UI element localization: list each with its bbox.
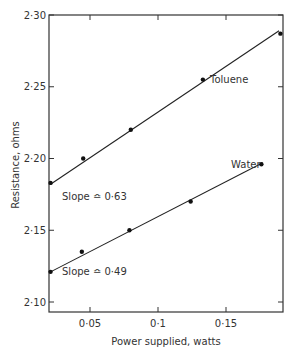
y-axis-title: Resistance, ohms <box>10 121 21 209</box>
fit-lines <box>51 31 279 272</box>
x-tick-label: 0·1 <box>150 318 166 329</box>
y-tick-label: 2·25 <box>24 81 46 92</box>
data-point-toluene <box>129 128 133 132</box>
y-tick-label: 2·15 <box>24 225 46 236</box>
series-label-water: Water <box>231 159 261 170</box>
x-tick-label: 0·05 <box>79 318 101 329</box>
x-axis-title: Power supplied, watts <box>111 336 220 347</box>
y-tick-label: 2·30 <box>24 10 46 21</box>
data-points <box>48 31 282 274</box>
data-point-water <box>80 250 84 254</box>
data-point-toluene <box>48 181 52 185</box>
y-tick-label: 2·10 <box>24 297 46 308</box>
data-point-water <box>48 270 52 274</box>
x-tick-label: 0·15 <box>215 318 237 329</box>
data-point-water <box>127 228 131 232</box>
slope-annotation-water: Slope ≏ 0·49 <box>62 266 127 277</box>
data-point-water <box>188 199 192 203</box>
data-point-toluene <box>201 77 205 81</box>
fit-line-water <box>51 163 263 272</box>
resistance-vs-power-chart: 2·102·152·202·252·30 0·050·10·15 Toluene… <box>0 0 295 356</box>
data-point-toluene <box>81 156 85 160</box>
y-tick-label: 2·20 <box>24 153 46 164</box>
data-point-toluene <box>278 31 282 35</box>
x-axis-ticks: 0·050·10·15 <box>79 15 237 329</box>
series-label-toluene: Toluene <box>209 74 248 85</box>
slope-annotation-toluene: Slope ≏ 0·63 <box>62 191 127 202</box>
